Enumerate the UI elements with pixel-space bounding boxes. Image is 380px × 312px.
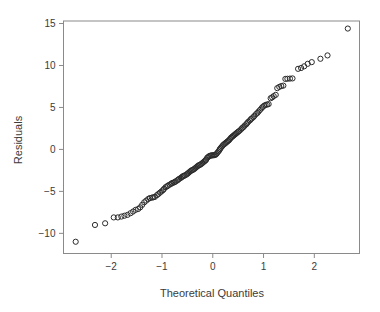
x-tick-label: 1 [261,261,267,272]
y-tick-label: 5 [50,102,56,113]
y-tick-label: 0 [50,144,56,155]
y-axis-title: Residuals [12,115,24,164]
x-axis-title: Theoretical Quantiles [160,287,264,299]
qq-plot-figure: −10−5051015 −2−1012 Theoretical Quantile… [0,0,380,312]
x-tick-label: −1 [156,261,168,272]
y-tick-label: −5 [44,186,56,197]
x-tick-label: −2 [106,261,118,272]
y-tick-label: 10 [44,60,56,71]
y-tick-label: −10 [39,228,56,239]
figure-background [0,0,380,312]
x-tick-label: 0 [210,261,216,272]
y-tick-label: 15 [44,18,56,29]
plot-canvas: −10−5051015 −2−1012 Theoretical Quantile… [0,0,380,312]
x-tick-label: 2 [312,261,318,272]
